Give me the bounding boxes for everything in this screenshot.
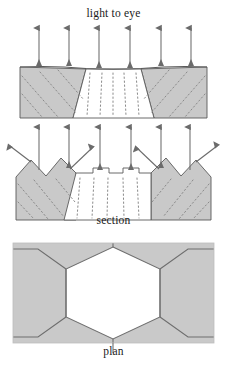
ray-oblique [137, 148, 159, 169]
figure-title-light-to-eye: light to eye [0, 7, 227, 19]
ray-group-vertical [39, 28, 191, 68]
caption-section: section [0, 214, 227, 226]
ray-surface-heads-mid [66, 161, 164, 170]
caption-plan: plan [0, 345, 227, 357]
ray-group-oblique [10, 146, 217, 169]
ray-oblique [70, 148, 92, 169]
figure-root: light to eye section plan [0, 0, 227, 367]
ray-oblique [196, 146, 217, 162]
ray-oblique [10, 146, 31, 162]
